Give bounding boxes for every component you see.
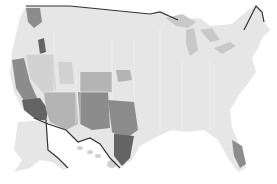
hawaii-island xyxy=(95,154,101,158)
hawaii-island xyxy=(87,150,93,154)
region-kansas-cluster xyxy=(116,70,132,82)
hawaii-island xyxy=(77,146,83,150)
region-utah-cluster xyxy=(58,62,74,84)
us-choropleth-map xyxy=(0,0,277,184)
region-colorado-south xyxy=(80,72,112,92)
region-new-mexico xyxy=(78,92,110,130)
